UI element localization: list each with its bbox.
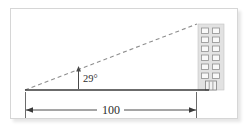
dimension-arrow-left: [26, 107, 33, 113]
window: [213, 73, 220, 79]
window: [213, 64, 220, 70]
window: [202, 37, 209, 43]
angle-indicator: [76, 66, 81, 89]
figure-root: 29° 100: [0, 0, 252, 134]
building-door: [206, 81, 217, 90]
window: [202, 46, 209, 52]
dimension-group: 100: [26, 92, 197, 118]
window: [202, 55, 209, 61]
line-of-sight: [25, 24, 197, 90]
window: [202, 28, 209, 34]
window: [213, 28, 220, 34]
window: [213, 46, 220, 52]
diagram-canvas: 29° 100: [0, 0, 252, 134]
building-group: [198, 24, 224, 90]
window: [202, 73, 209, 79]
window: [213, 37, 220, 43]
dimension-arrow-right: [189, 107, 196, 113]
base-length-label: 100: [102, 103, 120, 117]
angle-label: 29°: [83, 73, 98, 84]
window: [213, 55, 220, 61]
window: [202, 64, 209, 70]
